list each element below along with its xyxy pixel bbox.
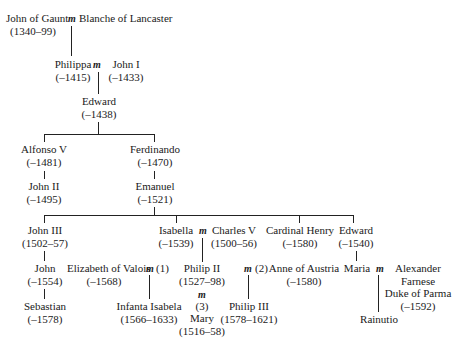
descent-line	[149, 275, 150, 299]
person-elizabeth-of-valois: Elizabeth of Valois	[67, 262, 151, 275]
person-philippa: Philippa	[55, 58, 92, 71]
person-dates: (–1568)	[87, 275, 122, 288]
descent-line	[248, 275, 249, 299]
descent-line	[98, 122, 99, 134]
person-john-i: John I	[112, 58, 139, 71]
descent-line	[44, 289, 45, 299]
person-sebastian: Sebastian	[24, 300, 66, 313]
person-john-iii: John III	[28, 224, 63, 237]
person-edward-1540: Edward	[339, 224, 373, 237]
descent-line	[44, 251, 45, 261]
person-dates: (–1433)	[109, 71, 144, 84]
person-dates: (–1438)	[82, 108, 117, 121]
descent-line	[44, 134, 45, 142]
marriage-symbol: m	[199, 224, 207, 237]
person-philip-iii: Philip III	[229, 300, 269, 313]
person-dates: (1502–57)	[22, 237, 68, 250]
descent-line	[98, 72, 99, 94]
person-ferdinando: Ferdinando	[130, 143, 180, 156]
person-dates: (1566–1633)	[121, 313, 178, 326]
descent-line	[44, 215, 45, 223]
descent-line	[299, 215, 300, 223]
person-dates: (–1495)	[27, 193, 62, 206]
person-dates: (1500–56)	[211, 237, 257, 250]
person-edward-1438: Edward	[82, 95, 116, 108]
person-dates: (–1539)	[159, 237, 194, 250]
marriage-number: (1)	[156, 262, 169, 275]
person-dates: (–1580)	[283, 237, 318, 250]
sibling-line	[44, 134, 155, 135]
descent-line	[356, 251, 357, 261]
descent-line	[71, 26, 72, 56]
person-john-of-gaunt: John of Gaunt	[6, 12, 68, 25]
person-mary: Mary	[190, 312, 214, 325]
person-dates: (–1521)	[138, 193, 173, 206]
marriage-symbol: m	[244, 262, 252, 275]
person-name-line: Duke of Parma	[385, 287, 452, 300]
descent-line	[378, 275, 379, 312]
person-dates: (–1540)	[339, 237, 374, 250]
person-dates: (1527–98)	[179, 275, 225, 288]
marriage-symbol: m	[68, 12, 76, 25]
person-isabella: Isabella	[159, 224, 193, 237]
person-emanuel: Emanuel	[135, 180, 174, 193]
person-dates: (–1578)	[28, 313, 63, 326]
person-charles-v: Charles V	[212, 224, 256, 237]
person-rainutio: Rainutio	[360, 313, 398, 326]
marriage-number: (2)	[255, 262, 268, 275]
person-dates: (–1470)	[138, 156, 173, 169]
descent-line	[202, 238, 203, 262]
person-dates: (1578–1621)	[221, 313, 278, 326]
person-name: John of Gaunt	[6, 12, 68, 24]
person-dates: (1340–99)	[10, 25, 56, 38]
descent-line	[353, 215, 354, 223]
descent-line	[154, 207, 155, 215]
person-infanta-isabela: Infanta Isabela	[116, 300, 181, 313]
descent-line	[176, 215, 177, 223]
person-john-ii: John II	[29, 180, 60, 193]
marriage-symbol: m	[376, 262, 384, 275]
person-dates: (–1554)	[28, 275, 63, 288]
person-john-1554: John	[35, 262, 56, 275]
person-maria: Maria	[344, 262, 370, 275]
person-dates: (–1481)	[27, 156, 62, 169]
person-blanche-of-lancaster: Blanche of Lancaster	[79, 12, 172, 25]
person-dates: (–1592)	[401, 300, 436, 313]
person-cardinal-henry: Cardinal Henry	[266, 224, 334, 237]
person-alfonso-v: Alfonso V	[21, 143, 67, 156]
person-dates: (–1580)	[287, 275, 322, 288]
marriage-symbol: m	[93, 58, 101, 71]
person-dates: (–1415)	[56, 71, 91, 84]
person-philip-ii: Philip II	[184, 262, 220, 275]
descent-line	[154, 171, 155, 179]
person-anne-of-austria: Anne of Austria	[269, 262, 339, 275]
descent-line	[44, 171, 45, 179]
marriage-symbol: m	[146, 262, 154, 275]
person-alexander-farnese: Alexander	[395, 262, 441, 275]
sibling-line	[44, 215, 354, 216]
person-dates: (1516–58)	[179, 325, 225, 338]
descent-line	[154, 134, 155, 142]
